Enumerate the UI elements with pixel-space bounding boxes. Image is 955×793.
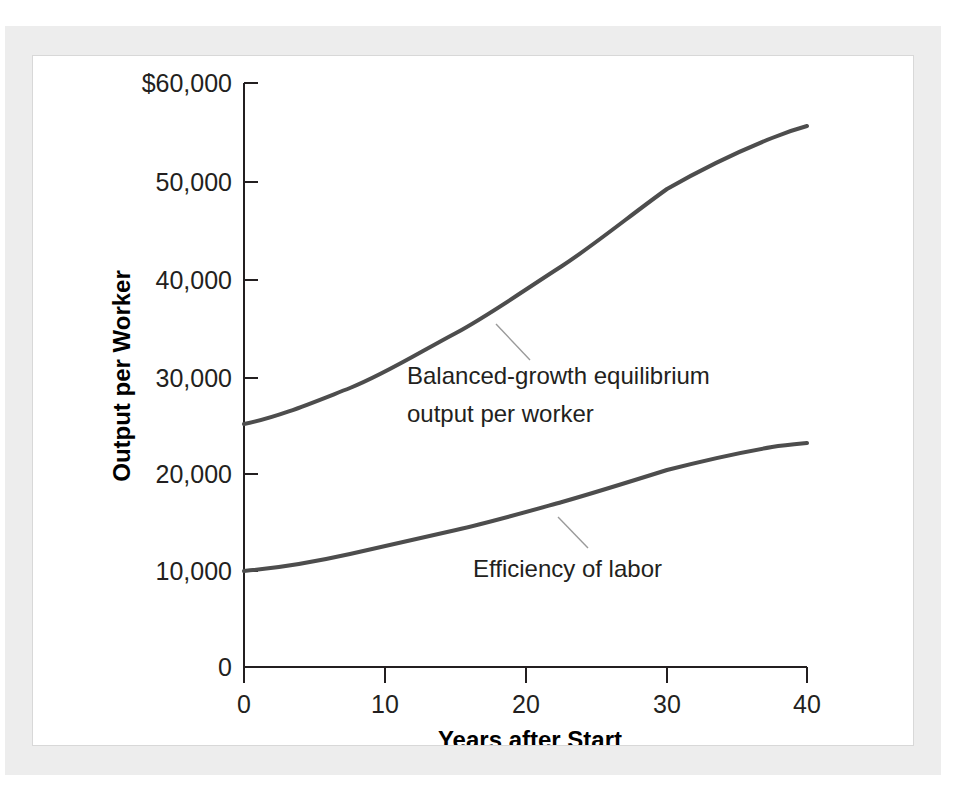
leader-line-efficiency-of-labor xyxy=(558,517,588,548)
y-axis-title: Output per Worker xyxy=(108,270,135,482)
annotation-balanced-growth-line1: Balanced-growth equilibrium xyxy=(407,362,710,389)
figure-root: $60,000 50,000 40,000 30,000 20,000 10,0… xyxy=(0,0,955,793)
line-chart: $60,000 50,000 40,000 30,000 20,000 10,0… xyxy=(33,56,913,745)
y-tick-label-10000: 10,000 xyxy=(156,557,232,585)
series-line-efficiency-of-labor xyxy=(244,443,807,571)
y-tick-label-0: 0 xyxy=(218,653,232,681)
x-tick-label-30: 30 xyxy=(653,690,681,718)
y-tick-label-40000: 40,000 xyxy=(156,266,232,294)
annotation-efficiency-of-labor: Efficiency of labor xyxy=(473,555,662,582)
x-tick-label-10: 10 xyxy=(371,690,399,718)
y-tick-label-50000: 50,000 xyxy=(156,168,232,196)
y-tick-label-30000: 30,000 xyxy=(156,364,232,392)
x-axis-title: Years after Start xyxy=(438,726,622,745)
x-tick-label-0: 0 xyxy=(237,690,251,718)
x-tick-label-40: 40 xyxy=(793,690,821,718)
chart-panel: $60,000 50,000 40,000 30,000 20,000 10,0… xyxy=(32,55,914,746)
y-tick-label-60000: $60,000 xyxy=(142,69,232,97)
y-tick-label-20000: 20,000 xyxy=(156,460,232,488)
annotation-balanced-growth-line2: output per worker xyxy=(407,400,594,427)
x-tick-label-20: 20 xyxy=(512,690,540,718)
leader-line-balanced-growth xyxy=(496,324,530,360)
